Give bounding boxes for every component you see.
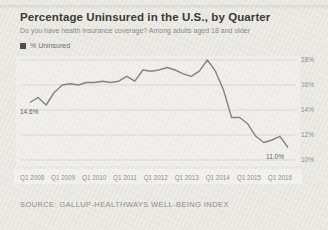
uninsured-chart-svg (16, 54, 300, 168)
x-tick-q1-2014: Q1 2014 (206, 174, 230, 181)
point-label-32: 11.0% (266, 153, 284, 160)
point-label-0: 14.6% (20, 108, 38, 115)
x-tick-q1-2015: Q1 2015 (237, 174, 261, 181)
y-tick-12: 12% (301, 131, 321, 138)
y-tick-16: 16% (301, 81, 321, 88)
source-credit: SOURCE: GALLUP-HEALTHWAYS WELL-BEING IND… (20, 200, 320, 209)
y-tick-18: 18% (301, 56, 321, 63)
x-tick-q1-2008: Q1 2008 (20, 174, 44, 181)
x-axis-labels: Q1 2008Q1 2009Q1 2010Q1 2011Q1 2012Q1 20… (20, 174, 292, 181)
x-tick-q1-2013: Q1 2013 (175, 174, 199, 181)
x-tick-q1-2016: Q1 2016 (268, 174, 292, 181)
chart-subtitle: Do you have health insurance coverage? A… (20, 27, 320, 34)
gridlines (20, 60, 296, 160)
uninsured-line (30, 60, 288, 148)
uninsured-trend-chart: Percentage Uninsured in the U.S., by Qua… (0, 0, 328, 230)
legend-square-icon (20, 43, 26, 49)
x-tick-q1-2012: Q1 2012 (144, 174, 168, 181)
y-tick-10: 10% (301, 156, 321, 163)
page-title: Percentage Uninsured in the U.S., by Qua… (20, 11, 315, 23)
chart-legend: % Uninsured (20, 42, 70, 49)
x-tick-q1-2011: Q1 2011 (113, 174, 137, 181)
x-tick-q1-2010: Q1 2010 (82, 174, 106, 181)
legend-series-label: % Uninsured (30, 42, 70, 49)
x-tick-q1-2009: Q1 2009 (51, 174, 75, 181)
y-tick-14: 14% (301, 106, 321, 113)
